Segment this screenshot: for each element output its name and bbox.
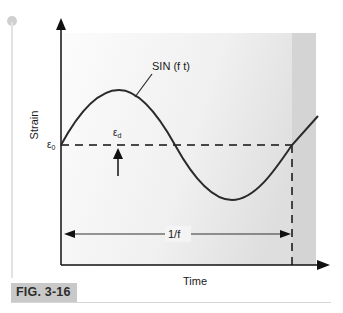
figure-caption: FIG. 3-16	[11, 283, 77, 302]
curve-label: SIN (f t)	[152, 60, 190, 72]
caption-rule	[11, 302, 331, 303]
period-band	[292, 33, 316, 265]
x-axis-label: Time	[183, 275, 207, 287]
x-axis-arrowhead-icon	[317, 260, 330, 270]
period-label: 1/f	[168, 228, 181, 240]
y-axis-label: Strain	[28, 111, 40, 140]
figure: SIN (f t) 1/f Time Strain ε0 εd FIG. 3-1…	[0, 0, 343, 313]
strain-diagram: SIN (f t) 1/f Time Strain ε0 εd	[0, 0, 343, 313]
y-axis-arrowhead-icon	[56, 18, 66, 30]
baseline-label: ε0	[47, 139, 55, 151]
